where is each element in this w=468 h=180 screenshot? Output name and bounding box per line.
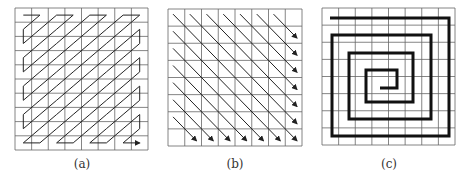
- caption-c: (c): [381, 157, 397, 171]
- grid-c: [322, 8, 455, 145]
- spiral-path: [330, 18, 449, 136]
- caption-a: (a): [74, 157, 91, 171]
- scan-patterns-figure: (a) (b) (c): [0, 0, 468, 180]
- panel-c: (c): [322, 8, 455, 171]
- caption-b: (b): [226, 157, 243, 171]
- panel-b: (b): [168, 9, 302, 171]
- panel-a: (a): [15, 8, 148, 171]
